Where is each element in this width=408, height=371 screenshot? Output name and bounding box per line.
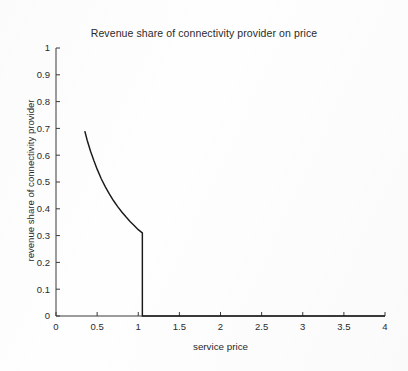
data-series-line <box>85 131 385 316</box>
x-tick-label: 0 <box>53 321 58 332</box>
y-tick-label: 0 <box>45 310 50 321</box>
y-tick-group <box>56 48 60 316</box>
x-tick-label: 2.5 <box>255 321 268 332</box>
x-tick-label: 2 <box>218 321 223 332</box>
x-tick-label: 0.5 <box>91 321 104 332</box>
x-tick-label: 3.5 <box>337 321 350 332</box>
y-tick-label-group: 00.10.20.30.40.50.60.70.80.91 <box>37 42 50 321</box>
figure-canvas: Revenue share of connectivity provider o… <box>0 0 408 371</box>
y-tick-label: 0.5 <box>37 176 50 187</box>
y-tick-label: 0.8 <box>37 96 50 107</box>
plot-area: 00.10.20.30.40.50.60.70.80.91 00.511.522… <box>0 0 408 371</box>
x-tick-label: 4 <box>382 321 387 332</box>
y-tick-label: 0.7 <box>37 123 50 134</box>
y-tick-label: 0.2 <box>37 257 50 268</box>
y-tick-label: 0.4 <box>37 203 50 214</box>
x-tick-label-group: 00.511.522.533.54 <box>53 321 387 332</box>
y-tick-label: 0.1 <box>37 284 50 295</box>
y-tick-label: 1 <box>45 42 50 53</box>
y-tick-label: 0.9 <box>37 69 50 80</box>
x-tick-label: 1.5 <box>173 321 186 332</box>
x-tick-label: 1 <box>136 321 141 332</box>
y-tick-label: 0.6 <box>37 150 50 161</box>
y-tick-label: 0.3 <box>37 230 50 241</box>
x-tick-label: 3 <box>300 321 305 332</box>
